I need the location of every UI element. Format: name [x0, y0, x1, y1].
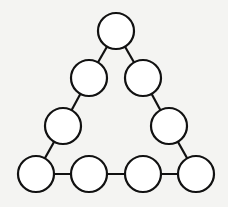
node-top	[98, 13, 134, 49]
edges-group	[36, 31, 196, 174]
node-bottom-1	[18, 156, 54, 192]
node-bottom-4	[178, 156, 214, 192]
nodes-group	[18, 13, 214, 192]
node-left-1	[71, 60, 107, 96]
node-right-2	[151, 108, 187, 144]
node-bottom-2	[71, 156, 107, 192]
node-right-1	[125, 60, 161, 96]
triangle-node-diagram	[0, 0, 228, 207]
node-left-2	[45, 108, 81, 144]
node-bottom-3	[125, 156, 161, 192]
